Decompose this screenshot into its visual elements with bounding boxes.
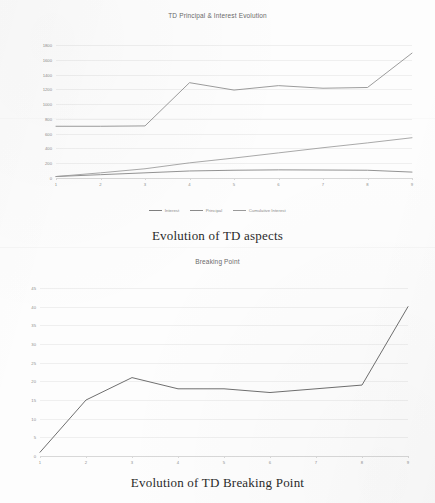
figure-one-caption: Evolution of TD aspects	[0, 228, 435, 244]
figure-one: TD Principal & Interest Evolution 020040…	[0, 0, 435, 253]
legend-label-cumulative-interest: Cumulative Interest	[249, 208, 286, 213]
legend-swatch-principal	[190, 210, 203, 211]
legend-label-principal: Principal	[206, 208, 222, 213]
chart-two-series	[0, 278, 435, 463]
series-line-cumulative-interest	[56, 138, 412, 177]
chart-two-plot-area: 051015202530354045 123456789	[0, 278, 435, 463]
chart-two-title: Breaking Point	[0, 258, 435, 265]
figure-two: Breaking Point 051015202530354045 123456…	[0, 253, 435, 503]
legend-swatch-interest	[149, 210, 162, 211]
legend-swatch-cumulative-interest	[233, 210, 246, 211]
series-line-principal	[56, 53, 412, 126]
legend-item-cumulative-interest[interactable]: Cumulative Interest	[233, 208, 286, 213]
chart-one-legend: Interest Principal Cumulative Interest	[0, 208, 435, 213]
chart-one-title: TD Principal & Interest Evolution	[0, 12, 435, 19]
legend-item-principal[interactable]: Principal	[190, 208, 222, 213]
scan-artifact-line	[0, 247, 435, 248]
series-line-breaking-point	[40, 307, 408, 453]
legend-label-interest: Interest	[165, 208, 179, 213]
chart-one-series	[0, 40, 435, 200]
figure-two-caption: Evolution of TD Breaking Point	[0, 475, 435, 491]
series-line-interest	[56, 170, 412, 177]
scan-artifact-line	[0, 118, 435, 119]
legend-item-interest[interactable]: Interest	[149, 208, 179, 213]
chart-one-plot-area: 020040060080010001200140016001800 123456…	[0, 40, 435, 200]
